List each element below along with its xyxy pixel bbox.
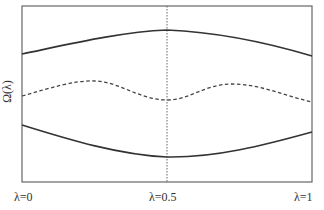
x-tick-mid: λ=0.5	[149, 190, 177, 205]
chart-canvas	[0, 0, 324, 210]
x-tick-0: λ=0	[14, 190, 33, 205]
x-tick-1: λ=1	[294, 190, 313, 205]
y-axis-label: Ω(λ)	[0, 80, 15, 103]
